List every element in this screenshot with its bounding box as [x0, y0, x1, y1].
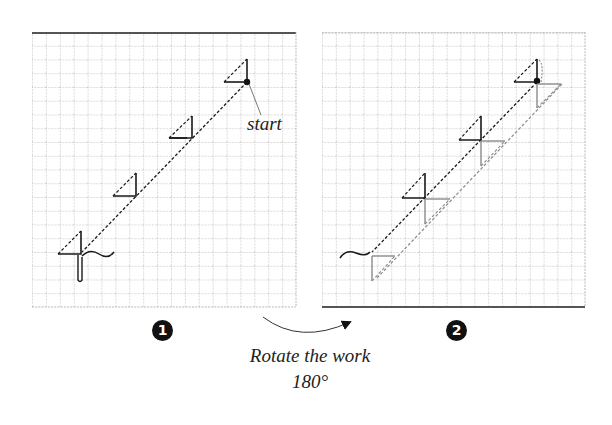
rotate-caption: Rotate the work 180° [230, 343, 390, 395]
grid-panel-1 [32, 32, 296, 307]
step-1-badge: 1 [152, 320, 173, 341]
caption-line-2: 180° [230, 369, 390, 395]
step-2-badge: 2 [446, 320, 467, 341]
caption-line-1: Rotate the work [230, 343, 390, 369]
rotate-arrow [263, 317, 350, 332]
grid-panel-2 [322, 32, 585, 307]
start-label: start [247, 113, 282, 135]
start-marker-2 [534, 78, 540, 84]
